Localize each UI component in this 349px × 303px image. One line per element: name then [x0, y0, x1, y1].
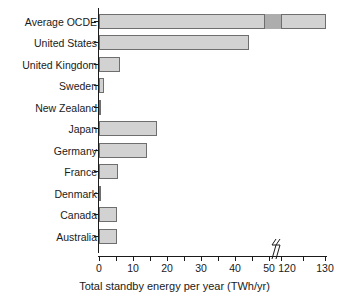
x-axis-tick: [99, 257, 100, 261]
x-axis-tick: [325, 257, 326, 261]
x-axis-tick: [184, 257, 185, 261]
bar-germany: [99, 143, 147, 158]
bar-chart: Average OCDE United States United Kingdo…: [0, 0, 349, 303]
bar-break-segment: [264, 14, 282, 29]
x-axis-tick: [116, 257, 117, 261]
category-label: Denmark: [0, 189, 97, 199]
plot-area: [99, 11, 326, 249]
x-axis-tick-label: 40: [220, 263, 250, 274]
x-axis-tick-label: 20: [152, 263, 182, 274]
x-axis-tick: [167, 257, 168, 261]
bar-france: [99, 164, 118, 179]
x-axis-tick: [201, 257, 202, 261]
x-axis-tick: [252, 257, 253, 261]
x-axis-title: Total standby energy per year (TWh/yr): [0, 280, 349, 292]
x-axis-tick: [235, 257, 236, 261]
bar-sweden: [99, 78, 104, 93]
axis-break-icon: [268, 239, 282, 259]
category-label: Germany: [0, 146, 97, 156]
bar-average-ocde: [99, 14, 326, 29]
category-label: New Zealand: [0, 103, 97, 113]
x-axis-tick: [133, 257, 134, 261]
x-axis-tick-label: 0: [84, 263, 114, 274]
category-label: Australia: [0, 232, 97, 242]
bar-united-kingdom: [99, 57, 120, 72]
category-label: Canada: [0, 210, 97, 220]
bar-united-states: [99, 35, 249, 50]
bar-denmark: [99, 186, 101, 201]
x-axis-tick: [218, 257, 219, 261]
category-label: Sweden: [0, 81, 97, 91]
category-label: France: [0, 167, 97, 177]
category-label: United Kingdom: [0, 60, 97, 70]
x-axis-tick: [303, 257, 304, 261]
bar-canada: [99, 207, 117, 222]
x-axis-tick-label: 30: [186, 263, 216, 274]
x-axis-tick: [150, 257, 151, 261]
x-axis-tick-label: 130: [310, 263, 340, 274]
x-axis-tick-label: 120: [272, 263, 302, 274]
category-label: Japan: [0, 124, 97, 134]
bar-new-zealand: [99, 100, 101, 115]
category-label: United States: [0, 38, 97, 48]
bar-australia: [99, 229, 117, 244]
bar-japan: [99, 121, 157, 136]
y-axis-line: [98, 8, 99, 253]
x-axis-tick-label: 10: [118, 263, 148, 274]
category-label: Average OCDE: [0, 17, 97, 27]
